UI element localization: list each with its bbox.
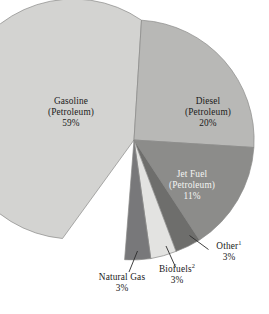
slice-label-jet-fuel-line1: Jet Fuel: [152, 169, 232, 180]
slice-label-jet-fuel-line2: (Petroleum): [152, 180, 232, 191]
slice-value-jet-fuel: 11%: [152, 191, 232, 202]
slice-value-diesel: 20%: [168, 118, 248, 129]
slice-value-natural-gas: 3%: [84, 283, 160, 294]
slice-label-other: Other1 3%: [203, 241, 255, 263]
slice-label-diesel-line1: Diesel: [168, 96, 248, 107]
slice-value-other: 3%: [203, 252, 255, 263]
slice-label-jet-fuel: Jet Fuel (Petroleum) 11%: [152, 169, 232, 201]
pie-slice-diesel[interactable]: [134, 20, 254, 147]
pie-chart: Gasoline (Petroleum) 59% Diesel (Petrole…: [0, 0, 269, 314]
slice-label-gasoline-line2: (Petroleum): [28, 107, 114, 118]
slice-label-gasoline: Gasoline (Petroleum) 59%: [28, 96, 114, 128]
slice-label-natural-gas: Natural Gas 3%: [84, 272, 160, 294]
slice-label-biofuels-footnote: 2: [192, 262, 195, 269]
slice-label-other-text: Other: [216, 241, 238, 251]
pie-chart-page: Gasoline (Petroleum) 59% Diesel (Petrole…: [0, 0, 269, 314]
slice-value-gasoline: 59%: [28, 118, 114, 129]
slice-label-natural-gas-line1: Natural Gas: [84, 272, 160, 283]
slice-label-other-line1: Other1: [203, 241, 255, 252]
slice-label-other-footnote: 1: [238, 239, 241, 246]
pie-graphic: [0, 0, 269, 314]
slice-label-biofuels-text: Biofuels: [159, 264, 192, 274]
slice-label-gasoline-line1: Gasoline: [28, 96, 114, 107]
slice-label-diesel-line2: (Petroleum): [168, 107, 248, 118]
slice-label-diesel: Diesel (Petroleum) 20%: [168, 96, 248, 128]
